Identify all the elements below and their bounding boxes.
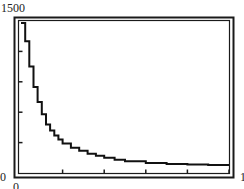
- y-axis-min-label: 0: [0, 171, 6, 183]
- y-axis-max-label: 1500: [1, 2, 25, 14]
- x-axis-max-label: 1: [240, 171, 244, 183]
- data-curve: [21, 23, 229, 165]
- inner-frame: [19, 21, 230, 174]
- plot-area: [0, 0, 244, 189]
- x-axis-min-label: 0: [13, 181, 19, 189]
- axis-ticks: [19, 51, 230, 173]
- outer-frame: [15, 18, 234, 178]
